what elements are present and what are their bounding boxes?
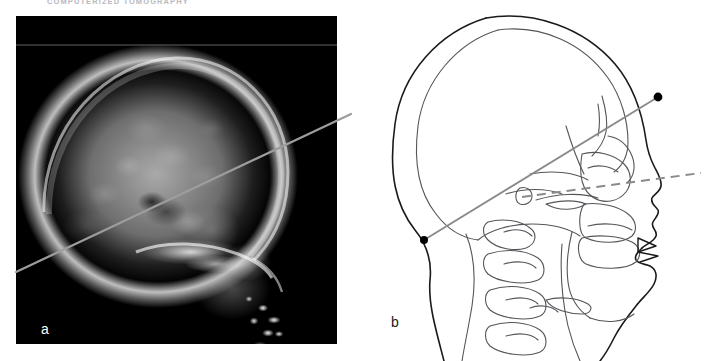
zygomatic-arch (536, 194, 598, 200)
scan-plane-endpoint-posterior (420, 236, 428, 244)
frontal-bone-detail (598, 104, 600, 136)
scan-plane-line (424, 97, 658, 240)
pharyngeal-airway-line (561, 244, 580, 361)
running-header: COMPUTERIZED TOMOGRAPHY (47, 0, 347, 7)
calvarial-inner-stroke (49, 66, 281, 256)
skull-base-line (478, 224, 580, 240)
panel-a-label: a (41, 322, 49, 336)
chin-and-anterior-neck-outline (600, 248, 656, 361)
c2-detail (504, 262, 536, 268)
maxillary-alveolar-line (588, 224, 632, 230)
inner-table-frontal (498, 29, 628, 172)
radiograph-edge-overlay (16, 16, 337, 344)
coronal-suture (566, 126, 584, 174)
lateral-head-line-drawing (370, 8, 704, 361)
figure-root: COMPUTERIZED TOMOGRAPHY a (0, 0, 704, 361)
c4-detail (506, 334, 538, 340)
scalp-outline-forehead-nose (486, 16, 661, 248)
mandible-body (579, 236, 640, 268)
panel-b-diagram: b (370, 8, 704, 361)
inner-table-posterior (416, 30, 498, 240)
skull-base-stroke (136, 244, 272, 278)
scan-plane-endpoint-anterior (654, 93, 663, 102)
sphenoid-wing (530, 172, 588, 180)
posterior-neck-inner-line (462, 234, 474, 361)
scalp-outline-posterior (392, 18, 486, 361)
orbitomeatal-reference-line (522, 173, 701, 197)
orbit-inner-margin (588, 166, 618, 172)
orbit-outline (581, 152, 631, 201)
c3-detail (506, 298, 538, 304)
mandibular-lower-border (590, 314, 634, 321)
panel-a-radiograph: a (16, 16, 337, 344)
calvarial-rim-stroke (44, 58, 288, 260)
c1-detail (504, 230, 532, 236)
hard-palate (546, 201, 586, 209)
hyoid-bone (546, 298, 591, 314)
panel-b-label: b (391, 315, 399, 329)
